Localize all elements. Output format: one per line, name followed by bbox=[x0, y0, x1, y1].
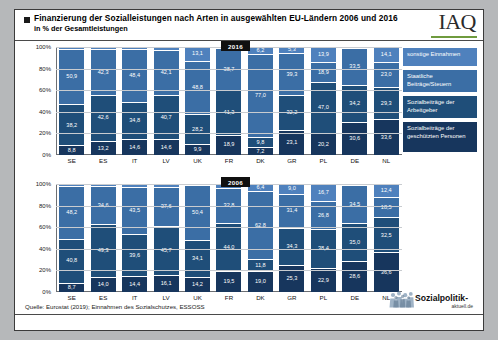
bar-segment: 45,7 bbox=[154, 226, 179, 274]
stacked-bar[interactable]: 34,649,314,0 bbox=[91, 184, 116, 292]
stacked-bar[interactable]: 32,844,019,5 bbox=[216, 184, 241, 292]
stacked-bar[interactable]: 13,148,828,29,9 bbox=[185, 47, 210, 155]
chart-legend: sonstige EinnahmenStaatliche Beiträge/St… bbox=[403, 48, 477, 156]
bar-column[interactable]: 38,741,318,9 bbox=[213, 47, 244, 155]
stacked-bar[interactable]: 38,741,318,9 bbox=[216, 47, 241, 155]
bar-segment: 23,0 bbox=[374, 62, 399, 87]
x-tick-label: NL bbox=[371, 157, 402, 169]
plot-area-2016: 50,938,28,842,342,613,248,434,814,642,14… bbox=[56, 47, 402, 155]
bar-segment: 18,5 bbox=[374, 197, 399, 217]
legend-item[interactable]: Sozialbeiträge der geschützten Personen bbox=[403, 122, 477, 152]
bar-segment: 50,9 bbox=[59, 49, 84, 104]
bullet-square-icon bbox=[24, 17, 30, 23]
bar-value-label: 42,6 bbox=[98, 115, 109, 121]
bar-segment: 49,3 bbox=[91, 224, 116, 277]
stacked-bar[interactable]: 14,123,029,333,6 bbox=[374, 47, 399, 155]
bar-segment: 6,2 bbox=[248, 47, 273, 54]
stacked-bar[interactable]: 42,342,613,2 bbox=[91, 47, 116, 155]
gridline bbox=[56, 69, 402, 70]
bar-column[interactable]: 42,342,613,2 bbox=[87, 47, 118, 155]
bar-value-label: 39,3 bbox=[286, 72, 297, 78]
stacked-bar[interactable]: 42,140,714,6 bbox=[154, 47, 179, 155]
bar-value-label: 34,8 bbox=[129, 118, 140, 124]
stacked-bar[interactable]: 6,462,811,819,0 bbox=[248, 184, 273, 292]
stacked-bar[interactable]: 37,645,716,1 bbox=[154, 184, 179, 292]
bar-segment: 19,0 bbox=[248, 271, 273, 292]
bar-column[interactable]: 34,649,314,0 bbox=[87, 184, 118, 292]
bar-value-label: 18,9 bbox=[318, 70, 329, 76]
bar-column[interactable]: 13,148,828,29,9 bbox=[182, 47, 213, 155]
bar-segment: 48,2 bbox=[59, 186, 84, 238]
bar-column[interactable]: 43,539,614,4 bbox=[119, 184, 150, 292]
bar-segment: 14,2 bbox=[185, 277, 210, 292]
bar-value-label: 33,6 bbox=[381, 135, 392, 141]
bar-column[interactable]: 50,938,28,8 bbox=[56, 47, 87, 155]
people-figures-icon bbox=[389, 290, 415, 310]
x-tick-label: GR bbox=[276, 157, 307, 169]
bar-column[interactable]: 34,535,028,6 bbox=[339, 184, 370, 292]
bar-segment: 7,2 bbox=[248, 147, 273, 155]
x-tick-label: ES bbox=[87, 157, 118, 169]
bar-value-label: 14,1 bbox=[381, 52, 392, 58]
bar-value-label: 23,0 bbox=[381, 72, 392, 78]
stacked-bar[interactable]: 34,535,028,6 bbox=[342, 184, 367, 292]
bar-value-label: 14,6 bbox=[129, 145, 140, 151]
legend-item[interactable]: sonstige Einnahmen bbox=[403, 48, 477, 66]
bar-column[interactable]: 42,140,714,6 bbox=[150, 47, 181, 155]
bar-column[interactable]: 48,434,814,6 bbox=[119, 47, 150, 155]
gridline bbox=[56, 206, 402, 207]
stacked-bar[interactable]: 12,418,532,536,6 bbox=[374, 184, 399, 292]
source-note: Quelle: Eurostat (2019); Einnahmen des S… bbox=[25, 303, 205, 310]
legend-item[interactable]: Sozialbeiträge der Arbeitgeber bbox=[403, 96, 477, 118]
bar-column[interactable]: 6,277,09,87,2 bbox=[245, 47, 276, 155]
stacked-bar[interactable]: 13,918,947,020,2 bbox=[311, 47, 336, 155]
bar-column[interactable]: 33,534,230,6 bbox=[339, 47, 370, 155]
x-tick-label: DE bbox=[339, 294, 370, 306]
stacked-bar[interactable]: 16,726,838,422,9 bbox=[311, 184, 336, 292]
bar-segment: 6,4 bbox=[248, 184, 273, 191]
bar-segment: 9,8 bbox=[248, 137, 273, 148]
x-tick-label: FR bbox=[213, 294, 244, 306]
stacked-bar[interactable]: 50,434,114,2 bbox=[185, 184, 210, 292]
bar-segment: 8,8 bbox=[59, 145, 84, 155]
bar-column[interactable]: 37,645,716,1 bbox=[150, 184, 181, 292]
bar-column[interactable]: 5,339,332,223,1 bbox=[276, 47, 307, 155]
bar-segment: 20,2 bbox=[311, 133, 336, 155]
bar-value-label: 9,8 bbox=[257, 140, 265, 146]
y-tick-label: 80% bbox=[39, 66, 51, 72]
bar-column[interactable]: 12,418,532,536,6 bbox=[371, 184, 402, 292]
bar-column[interactable]: 32,844,019,5 bbox=[213, 184, 244, 292]
bar-segment: 34,3 bbox=[279, 228, 304, 265]
y-tick-label: 0% bbox=[42, 152, 51, 158]
bar-column[interactable]: 16,726,838,422,9 bbox=[308, 184, 339, 292]
stacked-bar[interactable]: 43,539,614,4 bbox=[122, 184, 147, 292]
chart-sheet: Finanzierung der Sozialleistungen nach A… bbox=[14, 9, 484, 331]
stacked-bar[interactable]: 33,534,230,6 bbox=[342, 47, 367, 155]
stacked-bar[interactable]: 6,277,09,87,2 bbox=[248, 47, 273, 155]
bar-column[interactable]: 6,462,811,819,0 bbox=[245, 184, 276, 292]
bar-value-label: 19,0 bbox=[255, 279, 266, 285]
bar-column[interactable]: 48,240,88,7 bbox=[56, 184, 87, 292]
bar-column[interactable]: 9,031,434,325,3 bbox=[276, 184, 307, 292]
page-subtitle: in % der Gesamtleistungen bbox=[34, 24, 128, 33]
gridline bbox=[56, 270, 402, 271]
bar-value-label: 38,2 bbox=[66, 123, 77, 129]
bar-segment: 28,2 bbox=[185, 114, 210, 144]
stacked-bar[interactable]: 48,434,814,6 bbox=[122, 47, 147, 155]
bar-column[interactable]: 14,123,029,333,6 bbox=[371, 47, 402, 155]
bar-value-label: 43,5 bbox=[129, 208, 140, 214]
stacked-bar[interactable]: 5,339,332,223,1 bbox=[279, 47, 304, 155]
y-tick-label: 60% bbox=[39, 87, 51, 93]
bar-segment: 38,2 bbox=[59, 104, 84, 145]
bar-value-label: 14,6 bbox=[161, 145, 172, 151]
bar-value-label: 50,9 bbox=[66, 74, 77, 80]
x-tick-label: PL bbox=[308, 157, 339, 169]
bar-value-label: 13,2 bbox=[98, 146, 109, 152]
stacked-bar[interactable]: 50,938,28,8 bbox=[59, 47, 84, 155]
bar-column[interactable]: 50,434,114,2 bbox=[182, 184, 213, 292]
bar-value-label: 7,2 bbox=[257, 149, 265, 155]
bar-column[interactable]: 13,918,947,020,2 bbox=[308, 47, 339, 155]
stacked-bar[interactable]: 48,240,88,7 bbox=[59, 184, 84, 292]
legend-item[interactable]: Staatliche Beiträge/Steuern bbox=[403, 70, 477, 92]
stacked-bar[interactable]: 9,031,434,325,3 bbox=[279, 184, 304, 292]
